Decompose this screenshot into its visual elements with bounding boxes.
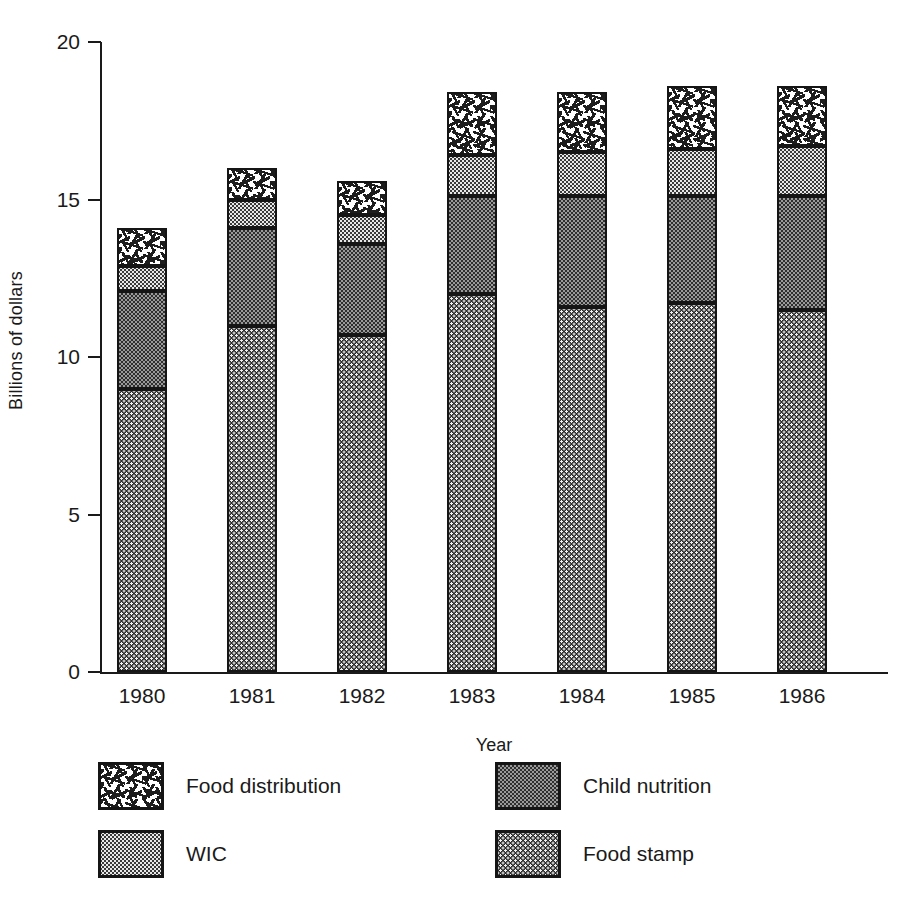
x-tick-label-1982: 1982 — [307, 684, 417, 708]
bar-segment-1985-food-stamp — [667, 303, 717, 672]
bar-segment-1980-food-distribution — [117, 228, 167, 266]
bar-segment-1984-wic — [557, 152, 607, 196]
legend-swatch-child-nutrition — [495, 762, 561, 810]
legend-label-child-nutrition: Child nutrition — [583, 774, 711, 798]
bar-segment-1984-food-distribution — [557, 92, 607, 152]
legend-swatch-food-stamp — [495, 830, 561, 878]
bar-segment-1985-child-nutrition — [667, 196, 717, 303]
y-tick-10 — [88, 356, 101, 358]
bar-segment-1983-food-stamp — [447, 294, 497, 672]
legend-item-food-distribution: Food distribution — [98, 762, 341, 810]
bar-segment-1985-food-distribution — [667, 86, 717, 149]
x-tick-label-1983: 1983 — [417, 684, 527, 708]
bar-segment-1983-child-nutrition — [447, 196, 497, 294]
bar-segment-1981-child-nutrition — [227, 228, 277, 326]
legend-item-child-nutrition: Child nutrition — [495, 762, 711, 810]
x-tick-label-1980: 1980 — [87, 684, 197, 708]
y-tick-0 — [88, 671, 101, 673]
bar-segment-1981-food-distribution — [227, 168, 277, 200]
bar-1980 — [117, 42, 167, 672]
bar-1982 — [337, 42, 387, 672]
bar-1985 — [667, 42, 717, 672]
bar-segment-1981-food-stamp — [227, 326, 277, 673]
y-tick-label-15: 15 — [18, 189, 80, 210]
bar-segment-1986-wic — [777, 146, 827, 196]
legend-swatch-wic — [98, 830, 164, 878]
y-tick-label-20: 20 — [18, 31, 80, 52]
bar-segment-1986-food-stamp — [777, 310, 827, 672]
bar-segment-1980-child-nutrition — [117, 291, 167, 389]
x-axis-line — [100, 672, 888, 674]
x-tick-label-1985: 1985 — [637, 684, 747, 708]
legend-item-food-stamp: Food stamp — [495, 830, 694, 878]
bar-segment-1982-food-distribution — [337, 181, 387, 216]
legend-label-food-distribution: Food distribution — [186, 774, 341, 798]
legend-swatch-food-distribution — [98, 762, 164, 810]
x-tick-label-1986: 1986 — [747, 684, 857, 708]
bar-segment-1984-child-nutrition — [557, 196, 607, 306]
bar-1983 — [447, 42, 497, 672]
bar-segment-1986-food-distribution — [777, 86, 827, 146]
bar-segment-1981-wic — [227, 200, 277, 228]
bar-segment-1984-food-stamp — [557, 307, 607, 672]
y-axis-line — [100, 42, 102, 674]
bar-segment-1986-child-nutrition — [777, 196, 827, 309]
y-tick-label-5: 5 — [18, 504, 80, 525]
bar-segment-1985-wic — [667, 149, 717, 196]
y-tick-label-10: 10 — [18, 346, 80, 367]
legend-label-food-stamp: Food stamp — [583, 842, 694, 866]
bar-segment-1982-food-stamp — [337, 335, 387, 672]
bar-segment-1982-wic — [337, 215, 387, 243]
legend-label-wic: WIC — [186, 842, 227, 866]
legend-item-wic: WIC — [98, 830, 227, 878]
bar-segment-1983-food-distribution — [447, 92, 497, 155]
y-tick-5 — [88, 514, 101, 516]
x-tick-label-1981: 1981 — [197, 684, 307, 708]
chart-legend: Food distributionChild nutritionWICFood … — [0, 762, 917, 902]
bar-segment-1982-child-nutrition — [337, 244, 387, 335]
y-tick-15 — [88, 199, 101, 201]
bar-segment-1980-wic — [117, 266, 167, 291]
bar-1981 — [227, 42, 277, 672]
y-axis-label: Billions of dollars — [6, 61, 27, 621]
bar-segment-1980-food-stamp — [117, 389, 167, 673]
x-tick-label-1984: 1984 — [527, 684, 637, 708]
bar-1986 — [777, 42, 827, 672]
y-tick-label-0: 0 — [18, 661, 80, 682]
x-axis-label: Year — [100, 735, 888, 756]
stacked-bar-chart: 05101520 Billions of dollars Year 198019… — [0, 0, 917, 903]
bar-1984 — [557, 42, 607, 672]
y-tick-20 — [88, 41, 101, 43]
bar-segment-1983-wic — [447, 155, 497, 196]
